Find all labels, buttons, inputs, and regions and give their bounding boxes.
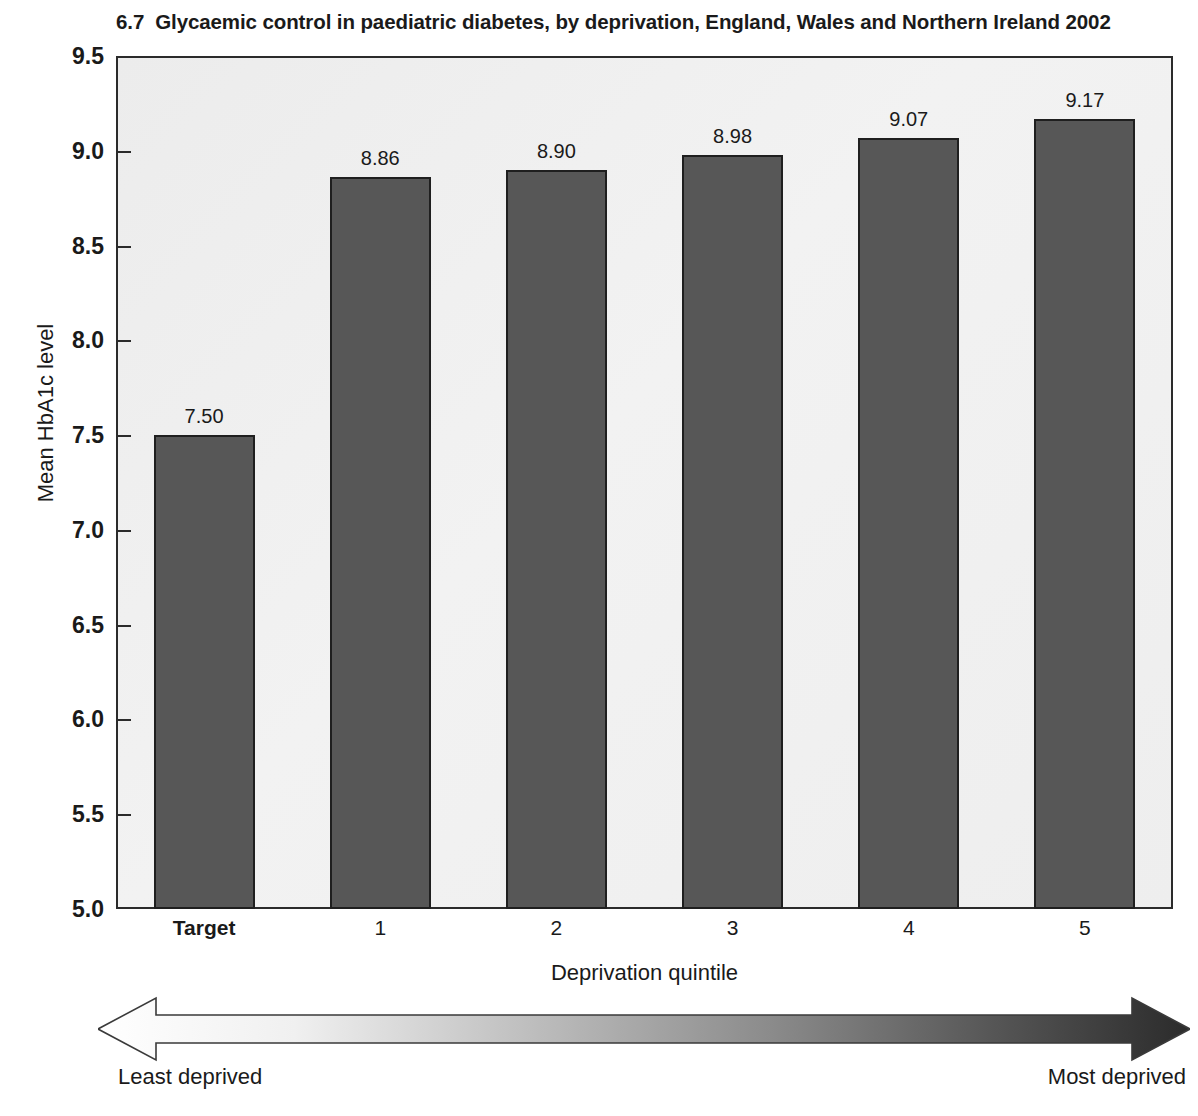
figure-number: 6.7	[116, 10, 144, 33]
x-axis-title: Deprivation quintile	[116, 960, 1173, 986]
bar-value-label: 7.50	[144, 405, 264, 428]
x-tick-label: 2	[476, 916, 636, 940]
y-tick-label: 5.5	[38, 801, 104, 828]
x-tick-label: 1	[300, 916, 460, 940]
y-tick-label: 8.0	[38, 327, 104, 354]
bar	[154, 435, 255, 909]
y-tick-mark	[116, 530, 131, 532]
x-tick-label: 4	[829, 916, 989, 940]
y-tick-mark	[116, 151, 131, 153]
y-tick-label: 5.0	[38, 896, 104, 923]
bar	[1034, 119, 1135, 909]
y-tick-label: 6.0	[38, 706, 104, 733]
bar	[682, 155, 783, 909]
y-tick-label: 9.0	[38, 137, 104, 164]
y-tick-mark	[116, 435, 131, 437]
bar-value-label: 9.17	[1025, 89, 1145, 112]
x-tick-label: Target	[124, 916, 284, 940]
bar-value-label: 8.98	[673, 125, 793, 148]
y-tick-label: 7.5	[38, 422, 104, 449]
y-tick-mark	[116, 814, 131, 816]
y-tick-mark	[116, 719, 131, 721]
bar-value-label: 9.07	[849, 108, 969, 131]
bar	[330, 177, 431, 909]
y-tick-label: 7.0	[38, 516, 104, 543]
deprivation-gradient-arrow-icon	[98, 996, 1190, 1062]
y-tick-label: 6.5	[38, 611, 104, 638]
y-tick-label: 9.5	[38, 43, 104, 70]
arrow-label-least-deprived: Least deprived	[118, 1064, 262, 1090]
y-tick-label: 8.5	[38, 232, 104, 259]
x-tick-label: 3	[653, 916, 813, 940]
figure-title-text: Glycaemic control in paediatric diabetes…	[155, 10, 1110, 33]
x-tick-label: 5	[1005, 916, 1165, 940]
bar	[858, 138, 959, 909]
y-tick-mark	[116, 340, 131, 342]
arrow-label-most-deprived: Most deprived	[1048, 1064, 1186, 1090]
y-tick-mark	[116, 625, 131, 627]
y-tick-mark	[116, 246, 131, 248]
bar-value-label: 8.86	[320, 147, 440, 170]
bar	[506, 170, 607, 909]
page-title: 6.7Glycaemic control in paediatric diabe…	[116, 10, 1111, 34]
plot-area	[116, 56, 1173, 909]
bar-value-label: 8.90	[496, 140, 616, 163]
